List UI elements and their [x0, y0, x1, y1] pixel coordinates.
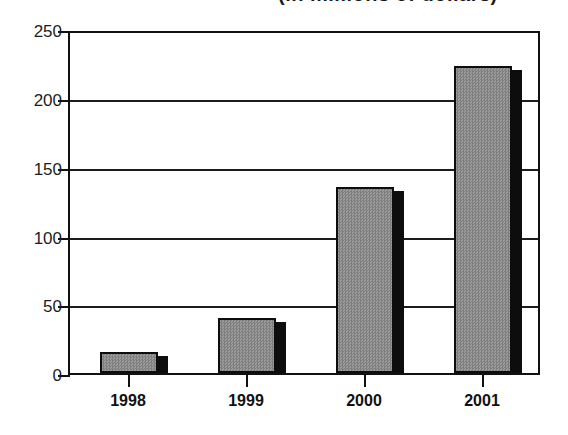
- bar-2000[interactable]: [336, 187, 406, 373]
- bar-2001-face: [454, 66, 512, 373]
- bar-2000-face: [336, 187, 394, 373]
- bar-1999-face: [218, 318, 276, 373]
- plot-area: [68, 31, 540, 375]
- bar-chart: 250 200 150 100 50 0 1998 1999 2000 2001: [0, 0, 568, 435]
- bar-2001[interactable]: [454, 66, 524, 373]
- xtick-1999: [246, 375, 248, 387]
- ytick-label-100: 100: [34, 230, 62, 247]
- xtick-1998: [128, 375, 130, 387]
- xtick-2001: [482, 375, 484, 387]
- ytick-label-50: 50: [43, 298, 62, 315]
- xtick-2000: [364, 375, 366, 387]
- ytick-label-200: 200: [34, 92, 62, 109]
- bar-1999[interactable]: [218, 318, 288, 373]
- ytick-label-150: 150: [34, 161, 62, 178]
- xtick-label-1999: 1999: [228, 392, 264, 410]
- ytick-label-0: 0: [53, 367, 62, 384]
- ytick-label-250: 250: [34, 23, 62, 40]
- xtick-label-2000: 2000: [346, 392, 382, 410]
- xtick-label-2001: 2001: [464, 392, 500, 410]
- bar-1998[interactable]: [100, 352, 170, 373]
- xtick-label-1998: 1998: [110, 392, 146, 410]
- bar-1998-face: [100, 352, 158, 373]
